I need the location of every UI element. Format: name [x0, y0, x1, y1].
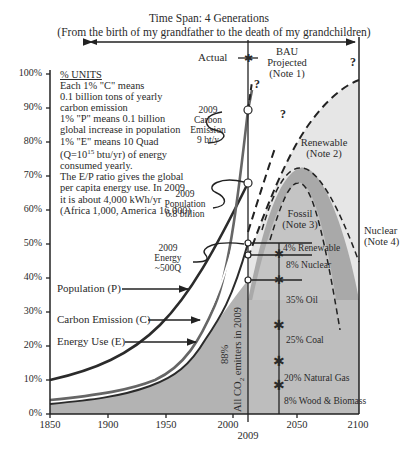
y-tick-0: 0% [8, 408, 42, 419]
energy-2009-point [245, 240, 251, 246]
population-2009-point [244, 179, 252, 187]
x-tick-1900: 1900 [92, 419, 124, 430]
units-line: carbon emission [60, 102, 191, 113]
renewable-label: Renewable(Note 2) [293, 137, 355, 159]
units-line: The E/P ratio gives the global [60, 171, 191, 182]
emitters-percent: 88% [219, 345, 230, 364]
population-2009-annotation: 2009Population6.8 billion [159, 190, 211, 220]
carbon-legend: Carbon Emission (C) [57, 314, 151, 326]
mix-oil: 35% Oil [286, 296, 318, 306]
carbon-question-mark: ? [254, 78, 260, 91]
carbon-2009-annotation: 2009CarbonEmission9 bt/y [188, 106, 228, 146]
title-line-2: (From the birth of my grandfather to the… [0, 26, 418, 38]
x-tick-2000: 2000 [212, 419, 244, 430]
bracket-star-4: ✱ [273, 354, 285, 369]
mix-wood-biomass: 8% Wood & Biomass [284, 397, 366, 407]
x-tick-2050: 2050 [281, 419, 313, 430]
emitters-label: All CO2 emitters in 2009 [232, 307, 246, 412]
carbon-2009-point [244, 106, 252, 114]
nuclear-label: Nuclear(Note 4) [364, 225, 399, 247]
upper-question-mark: ? [350, 56, 356, 69]
bau-label: BAUProjected(Note 1) [262, 46, 312, 79]
units-line: (Q=1015 btu/yr) of energy [60, 147, 191, 161]
x-tick-1950: 1950 [150, 419, 182, 430]
projection-question-mark: ? [280, 108, 286, 121]
units-line: 1% "P" means 0.1 billion [60, 113, 191, 124]
mix-natural-gas: 20% Natural Gas [284, 374, 349, 384]
bracket-star-2: ✱ [274, 273, 284, 287]
bracket-star-3: ✱ [273, 318, 285, 333]
y-tick-40: 40% [8, 272, 42, 283]
y-tick-100: 100% [8, 68, 42, 79]
population-legend: Population (P) [57, 283, 121, 295]
title-line-1: Time Span: 4 Generations [0, 12, 418, 24]
y-tick-60: 60% [8, 204, 42, 215]
star-mark: ✱ [244, 52, 253, 64]
energy-2009-annotation: 2009Energy~500Q [148, 244, 188, 274]
mix-coal: 25% Coal [286, 336, 324, 346]
oil-point [245, 277, 251, 283]
x-tick-2009: 2009 [232, 430, 264, 441]
units-line: 1% "E" means 10 Quad [60, 136, 191, 147]
y-tick-80: 80% [8, 136, 42, 147]
y-tick-90: 90% [8, 102, 42, 113]
units-line: 0.1 billion tons of yearly [60, 91, 191, 102]
y-tick-30: 30% [8, 306, 42, 317]
x-tick-2100: 2100 [342, 419, 374, 430]
nuclear-point [245, 252, 251, 258]
y-tick-20: 20% [8, 340, 42, 351]
energy-legend: Energy Use (E) [57, 336, 125, 348]
units-heading: % UNITS [60, 69, 191, 80]
fossil-label: Fossil(Note 3) [276, 208, 324, 230]
y-tick-50: 50% [8, 238, 42, 249]
units-line: Each 1% "C" means [60, 80, 191, 91]
units-line: global increase in population [60, 124, 191, 135]
y-tick-70: 70% [8, 170, 42, 181]
mix-nuclear: 8% Nuclear [286, 261, 331, 271]
x-tick-1850: 1850 [34, 419, 66, 430]
y-tick-10: 10% [8, 374, 42, 385]
actual-label: Actual [198, 52, 227, 64]
energy-callout-squiggle [193, 243, 244, 262]
mix-renewable: 4% Renewable [283, 244, 340, 254]
units-line: consumed yearly. [60, 160, 191, 171]
